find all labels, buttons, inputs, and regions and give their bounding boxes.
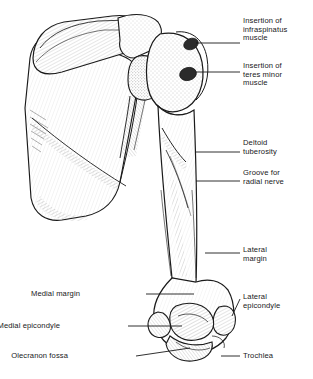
label-lateral-margin: Lateral margin bbox=[243, 246, 267, 263]
scapula bbox=[25, 15, 164, 222]
label-olecranon-fossa: Olecranon fossa bbox=[11, 352, 68, 361]
label-medial-epicondyle: Medial epicondyle bbox=[0, 322, 60, 331]
label-deltoid-tuberosity: Deltoid tuberosity bbox=[243, 139, 277, 156]
label-lateral-epicondyle: Lateral epicondyle bbox=[243, 293, 280, 310]
label-insertion-infraspinatus: Insertion of infraspinatus muscle bbox=[243, 17, 287, 43]
label-trochlea: Trochlea bbox=[243, 352, 273, 361]
label-insertion-teres-minor: Insertion of teres minor muscle bbox=[243, 62, 282, 88]
label-groove-radial-nerve: Groove for radial nerve bbox=[243, 169, 284, 186]
anatomy-figure: Insertion of infraspinatus muscleInserti… bbox=[0, 0, 313, 379]
label-medial-margin: Medial margin bbox=[31, 290, 80, 299]
humerus bbox=[147, 32, 236, 361]
